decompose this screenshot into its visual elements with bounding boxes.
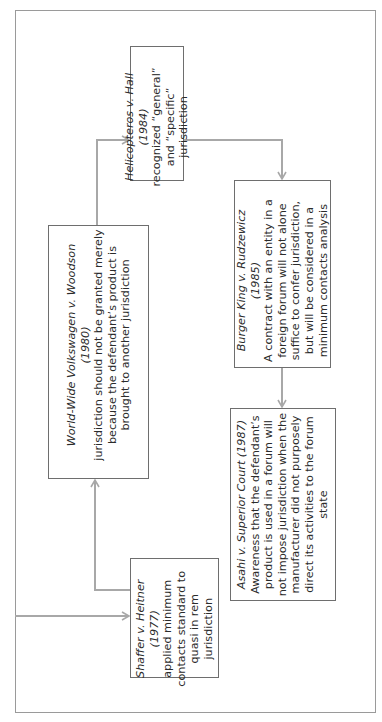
helicopteros-to-burgerking-arrow bbox=[183, 140, 282, 179]
node-helicopteros: Helicopteros v. Hall (1984) recognized “… bbox=[130, 46, 184, 181]
node-worldwide: World-Wide Volkswagen v. Woodson (1980) … bbox=[48, 225, 149, 479]
node-shaffer: Shaffer v. Heitner (1977) applied minimu… bbox=[130, 558, 219, 678]
node-burgerking-body: A contract with an entity in a foreign f… bbox=[262, 191, 330, 371]
node-burgerking: Burger King v. Rudzewicz (1985) A contra… bbox=[234, 180, 331, 368]
node-worldwide-body: jurisdiction should not be granted merel… bbox=[92, 225, 133, 465]
node-helicopteros-body: recognized “general” and “specific” juri… bbox=[150, 62, 191, 190]
node-asahi-title: Asahi v. Superior Court (1987) bbox=[235, 411, 249, 597]
shaffer-to-worldwide-arrow bbox=[95, 480, 130, 590]
node-asahi: Asahi v. Superior Court (1987) Awareness… bbox=[230, 408, 336, 601]
node-helicopteros-title: Helicopteros v. Hall (1984) bbox=[123, 62, 150, 190]
node-worldwide-title: World-Wide Volkswagen v. Woodson (1980) bbox=[65, 225, 92, 465]
node-shaffer-body: applied minimum contacts standard to qua… bbox=[161, 570, 215, 688]
node-burgerking-title: Burger King v. Rudzewicz (1985) bbox=[235, 191, 262, 371]
node-asahi-body: Awareness that the defendant’s product i… bbox=[249, 411, 331, 597]
node-shaffer-title: Shaffer v. Heitner (1977) bbox=[134, 570, 161, 688]
